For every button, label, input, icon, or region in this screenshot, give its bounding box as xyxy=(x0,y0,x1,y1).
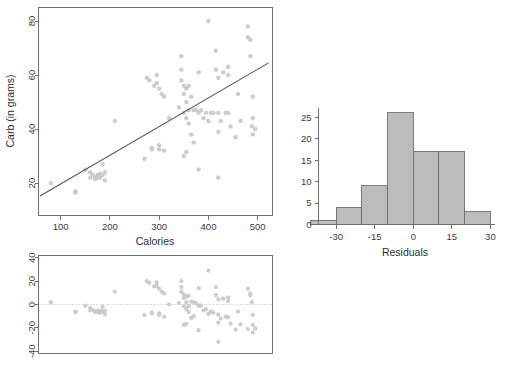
residual-points-group xyxy=(49,269,257,344)
scatter-data-point xyxy=(221,70,225,74)
scatter-data-point xyxy=(226,73,230,77)
residual-data-point xyxy=(217,313,221,317)
residual-data-point xyxy=(246,287,250,291)
statistics-figure: 100200300400500 20406080 Calories Carb (… xyxy=(0,0,507,368)
scatter-data-point xyxy=(216,76,220,80)
residual-data-point xyxy=(101,305,105,309)
scatter-data-point xyxy=(157,143,161,147)
scatter-data-point xyxy=(251,95,255,99)
residual-data-point xyxy=(157,287,161,291)
scatter-data-point xyxy=(162,149,166,153)
residual-data-point xyxy=(103,309,107,313)
scatter-data-point xyxy=(214,49,218,53)
residual-data-point xyxy=(157,313,161,317)
residual-y-tick-label: 20 xyxy=(26,276,37,287)
scatter-x-axis-ticks: 100200300400500 xyxy=(53,216,266,232)
residual-data-point xyxy=(214,293,218,297)
residual-data-point xyxy=(148,281,152,285)
scatter-data-point xyxy=(234,135,238,139)
scatter-data-point xyxy=(162,95,166,99)
scatter-data-point xyxy=(113,119,117,123)
histogram-x-tick-label: 30 xyxy=(485,231,496,242)
residual-data-point xyxy=(226,316,230,320)
residual-data-point xyxy=(187,304,191,308)
residual-data-point xyxy=(251,331,255,335)
scatter-data-point xyxy=(150,147,154,151)
residual-y-tick-label: 0 xyxy=(26,302,37,307)
histogram-x-tick-label: 15 xyxy=(447,231,458,242)
scatter-data-point xyxy=(179,54,183,58)
residual-data-point xyxy=(207,269,211,273)
scatter-x-tick-label: 300 xyxy=(151,221,167,232)
scatter-y-axis-title: Carb (in grams) xyxy=(4,75,16,148)
residual-data-point xyxy=(187,310,191,314)
histogram-x-axis-ticks: -30-1501530 xyxy=(329,225,495,242)
scatter-data-point xyxy=(197,168,201,172)
histogram-bar xyxy=(465,212,491,225)
residual-data-point xyxy=(214,285,218,289)
residual-data-point xyxy=(217,321,221,325)
residual-data-point xyxy=(229,322,233,326)
scatter-data-point xyxy=(226,65,230,69)
residual-y-tick-label: -20 xyxy=(26,321,37,335)
scatter-data-point xyxy=(214,68,218,72)
residual-y-tick-label: 40 xyxy=(26,253,37,264)
histogram-bar xyxy=(336,207,362,224)
scatter-data-point xyxy=(189,133,193,137)
scatter-panel: 100200300400500 20406080 Calories Carb (… xyxy=(4,8,273,248)
histogram-bar xyxy=(311,220,337,224)
figure-root: 100200300400500 20406080 Calories Carb (… xyxy=(0,0,507,368)
residual-plot-frame xyxy=(39,256,273,354)
scatter-points-group xyxy=(49,19,257,194)
histogram-y-tick-label: 20 xyxy=(301,133,312,144)
scatter-data-point xyxy=(216,130,220,134)
residual-data-point xyxy=(180,279,184,283)
scatter-data-point xyxy=(199,108,203,112)
residual-data-point xyxy=(246,327,250,331)
residual-data-point xyxy=(217,297,221,301)
scatter-data-point xyxy=(251,133,255,137)
histogram-y-tick-label: 10 xyxy=(301,176,312,187)
scatter-y-axis-ticks: 20406080 xyxy=(26,16,39,189)
scatter-data-point xyxy=(147,79,151,83)
scatter-data-point xyxy=(236,92,240,96)
scatter-data-point xyxy=(197,70,201,74)
residual-data-point xyxy=(212,311,216,315)
residual-data-point xyxy=(162,315,166,319)
scatter-data-point xyxy=(253,127,257,131)
scatter-data-point xyxy=(250,124,254,128)
residual-data-point xyxy=(49,300,53,304)
scatter-data-point xyxy=(189,95,193,99)
residual-data-point xyxy=(184,322,188,326)
scatter-data-point xyxy=(184,100,188,104)
scatter-data-point xyxy=(207,19,211,23)
residual-data-point xyxy=(221,297,225,301)
residual-data-point xyxy=(234,328,238,332)
residual-data-point xyxy=(219,317,223,321)
residual-data-point xyxy=(253,327,257,331)
residual-y-tick-label: -40 xyxy=(26,344,37,358)
scatter-data-point xyxy=(101,162,105,166)
residual-data-point xyxy=(236,310,240,314)
histogram-bar xyxy=(388,113,414,225)
residual-data-point xyxy=(84,304,88,308)
scatter-data-point xyxy=(187,122,191,126)
histogram-x-tick-label: -15 xyxy=(368,231,382,242)
scatter-data-point xyxy=(216,176,220,180)
scatter-data-point xyxy=(143,157,147,161)
scatter-data-point xyxy=(211,111,215,115)
scatter-x-axis-title: Calories xyxy=(136,235,175,247)
residual-data-point xyxy=(184,300,188,304)
scatter-data-point xyxy=(182,154,186,158)
residual-data-point xyxy=(197,286,201,290)
histogram-bars-group xyxy=(311,113,491,225)
residual-data-point xyxy=(150,311,154,315)
residual-data-point xyxy=(197,328,201,332)
scatter-y-tick-label: 60 xyxy=(26,70,37,81)
residual-data-point xyxy=(187,294,191,298)
scatter-data-point xyxy=(179,79,183,83)
scatter-data-point xyxy=(248,54,252,58)
scatter-y-tick-label: 80 xyxy=(26,16,37,27)
scatter-data-point xyxy=(74,191,78,195)
scatter-x-tick-label: 500 xyxy=(250,221,266,232)
